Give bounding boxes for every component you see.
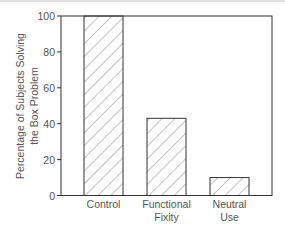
bar-functional-fixity <box>147 118 186 195</box>
plot-area: 020406080100ControlFunctionalFixityNeutr… <box>14 10 272 223</box>
x-category-label: Fixity <box>154 211 179 223</box>
y-axis-title: the Box Problem <box>28 67 40 145</box>
bar-neutral-use <box>210 178 249 196</box>
y-tick-label: 80 <box>43 46 55 58</box>
x-category-label: Neutral <box>213 198 247 210</box>
bar-control <box>84 16 123 196</box>
y-tick-label: 40 <box>43 118 55 130</box>
y-axis-title: Percentage of Subjects Solving <box>14 33 26 179</box>
x-category-label: Functional <box>142 198 190 210</box>
y-tick-label: 20 <box>43 154 55 166</box>
y-tick-label: 100 <box>37 10 55 22</box>
bar-chart: 020406080100ControlFunctionalFixityNeutr… <box>0 0 285 231</box>
y-tick-label: 60 <box>43 82 55 94</box>
x-category-label: Control <box>87 198 121 210</box>
y-tick-label: 0 <box>49 190 55 202</box>
x-category-label: Use <box>220 211 239 223</box>
